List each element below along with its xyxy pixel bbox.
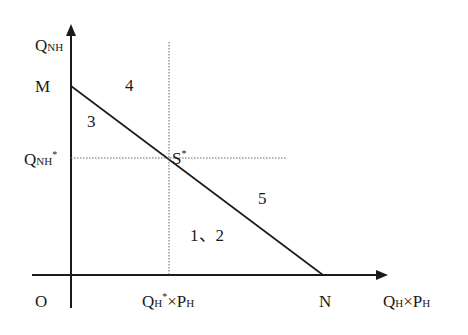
point-n-label: N [319, 293, 331, 310]
y-tick-sup: * [52, 149, 57, 160]
y-tick-sub: NH [36, 155, 52, 167]
region-3-label: 3 [87, 113, 96, 130]
y-equilibrium-tick-label: QNH* [24, 151, 57, 168]
region-4-label: 4 [125, 77, 134, 94]
y-tick-main: Q [24, 150, 36, 169]
x-equilibrium-tick-label: QH*×PH [142, 293, 194, 310]
region-1-2-label: 1、2 [190, 227, 224, 244]
x-tick-p: P [177, 292, 186, 311]
x-axis-arrow-icon [376, 270, 388, 280]
equilibrium-sup: * [181, 148, 186, 159]
x-tick-times: × [167, 292, 177, 311]
x-axis-p-sub: H [422, 297, 430, 309]
region-5-label: 5 [258, 190, 267, 207]
x-axis-label: QH×PH [383, 293, 430, 310]
equilibrium-point-label: S* [172, 150, 186, 167]
origin-label: O [35, 293, 47, 310]
y-axis-label: QNH [35, 37, 63, 54]
diagram-canvas: QNH M QNH* S* 4 3 5 1、2 O QH*×PH N QH×PH [0, 0, 468, 335]
x-tick-q-sup: * [162, 291, 167, 302]
x-axis-q: Q [383, 292, 395, 311]
y-axis-label-sub: NH [47, 41, 63, 53]
y-axis-label-main: Q [35, 36, 47, 55]
x-tick-p-sub: H [186, 297, 194, 309]
budget-line-mn [71, 86, 323, 275]
x-axis-q-sub: H [395, 297, 403, 309]
diagram-svg [0, 0, 468, 335]
x-tick-q: Q [142, 292, 154, 311]
point-m-label: M [35, 78, 50, 95]
x-axis-p: P [413, 292, 422, 311]
x-axis-times: × [403, 292, 413, 311]
y-axis-arrow-icon [66, 24, 76, 36]
